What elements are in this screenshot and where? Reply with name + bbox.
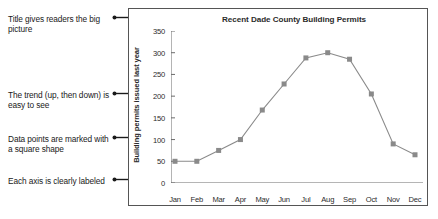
y-axis-tick-labels: 050100150200250300350	[143, 31, 165, 183]
x-tick-label: Jan	[169, 195, 181, 204]
x-tick-label: Jun	[278, 195, 290, 204]
x-tick-label: Oct	[366, 195, 377, 204]
y-tick-label: 100	[143, 135, 165, 144]
x-tick-label: Feb	[191, 195, 204, 204]
x-tick-label: May	[255, 195, 269, 204]
figure-root: Title gives readers the big picture The …	[0, 0, 438, 219]
y-axis-title: Building permits issued last year	[132, 15, 143, 195]
y-tick-label: 0	[143, 179, 165, 188]
data-point-marker	[216, 148, 221, 153]
y-tick-label: 250	[143, 70, 165, 79]
annotation-data-points: Data points are marked with a square sha…	[8, 134, 112, 155]
x-axis-tick-labels: JanFebMarAprMayJunJulAugSepOctNovDec	[171, 195, 423, 207]
data-point-marker	[260, 108, 265, 113]
chart-container: Recent Dade County Building Permits Buil…	[128, 8, 428, 206]
data-point-marker	[194, 159, 199, 164]
y-tick-label: 350	[143, 27, 165, 36]
series-line	[175, 53, 415, 162]
data-point-marker	[282, 81, 287, 86]
data-point-marker	[325, 50, 330, 55]
chart-title: Recent Dade County Building Permits	[165, 15, 423, 24]
x-tick-label: Nov	[387, 195, 400, 204]
x-tick-label: Aug	[321, 195, 334, 204]
data-point-marker	[238, 137, 243, 142]
line-chart-svg	[171, 31, 423, 183]
plot-area	[171, 31, 423, 183]
data-point-marker	[173, 159, 178, 164]
x-tick-label: Apr	[235, 195, 246, 204]
x-tick-label: Jul	[301, 195, 310, 204]
y-tick-label: 300	[143, 48, 165, 57]
annotation-title: Title gives readers the big picture	[8, 14, 112, 35]
y-tick-label: 50	[143, 157, 165, 166]
data-point-marker	[391, 141, 396, 146]
x-tick-label: Sep	[343, 195, 356, 204]
x-tick-label: Dec	[409, 195, 422, 204]
data-point-marker	[369, 91, 374, 96]
y-tick-label: 200	[143, 92, 165, 101]
data-point-marker	[347, 57, 352, 62]
data-point-marker	[303, 55, 308, 60]
x-tick-label: Mar	[212, 195, 224, 204]
annotation-trend: The trend (up, then down) is easy to see	[8, 90, 112, 111]
annotation-axis-labels: Each axis is clearly labeled	[8, 176, 112, 186]
y-tick-label: 150	[143, 113, 165, 122]
data-point-marker	[413, 152, 418, 157]
